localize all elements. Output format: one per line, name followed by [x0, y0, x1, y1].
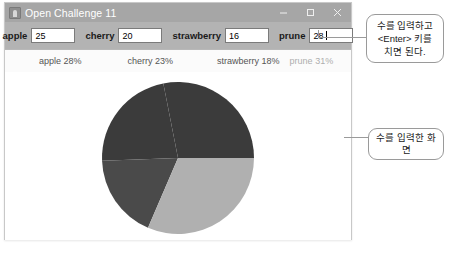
legend-apple: apple 28% — [39, 56, 82, 66]
minimize-icon[interactable] — [270, 3, 297, 22]
input-strawberry[interactable]: 16 — [225, 28, 269, 43]
legend-cherry: cherry 23% — [128, 56, 174, 66]
field-group-prune: prune 28 — [279, 28, 353, 43]
legend-strawberry: strawberry 18% — [217, 56, 280, 66]
input-apple[interactable]: 25 — [31, 28, 75, 43]
legend-prune: prune 31% — [290, 56, 334, 66]
window-title: Open Challenge 11 — [25, 7, 116, 19]
window-controls — [270, 3, 351, 22]
callout-enter-hint: 수를 입력하고 <Enter> 키를 치면 된다. — [366, 14, 444, 63]
app-icon — [9, 7, 21, 19]
input-cherry[interactable]: 20 — [118, 28, 162, 43]
field-group-cherry: cherry 20 — [85, 28, 162, 43]
app-window: Open Challenge 11 apple 25 cherry 20 str… — [4, 2, 352, 240]
label-cherry: cherry — [85, 30, 114, 41]
pie-slice-apple — [163, 82, 254, 158]
callout-screen-hint: 수를 입력한 화면 — [368, 128, 444, 160]
leader-line-enter — [318, 37, 366, 38]
input-prune[interactable]: 28 — [309, 28, 353, 43]
leader-line-screen — [344, 137, 368, 138]
pie-chart — [98, 78, 258, 238]
maximize-icon[interactable] — [297, 3, 324, 22]
leader-line-enter-stub — [318, 30, 319, 38]
label-apple: apple — [3, 30, 28, 41]
chart-canvas — [5, 72, 351, 240]
close-icon[interactable] — [324, 3, 351, 22]
label-strawberry: strawberry — [172, 30, 221, 41]
title-bar: Open Challenge 11 — [5, 3, 351, 22]
field-group-strawberry: strawberry 16 — [172, 28, 269, 43]
label-prune: prune — [279, 30, 305, 41]
input-toolbar: apple 25 cherry 20 strawberry 16 prune 2… — [5, 22, 351, 50]
field-group-apple: apple 25 — [3, 28, 76, 43]
percent-legend-row: apple 28% cherry 23% strawberry 18% prun… — [5, 50, 351, 72]
